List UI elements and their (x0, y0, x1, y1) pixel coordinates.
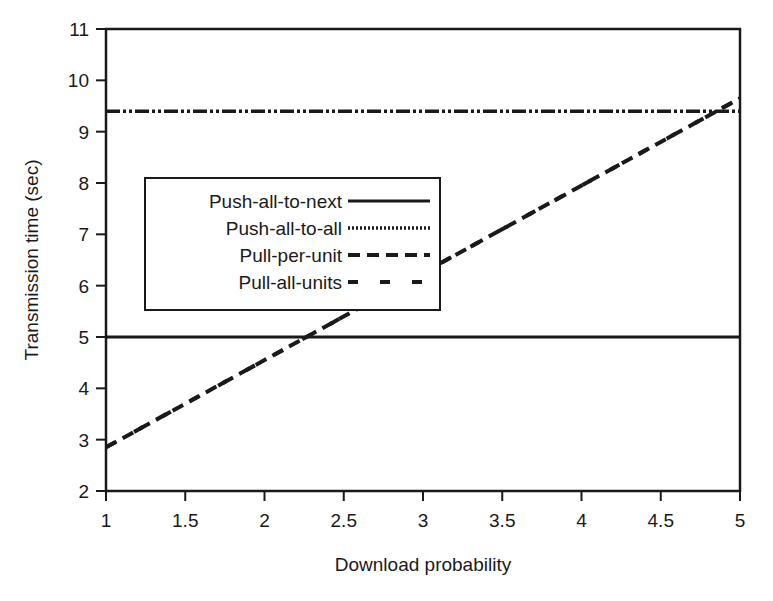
y-tick-label: 9 (78, 122, 89, 143)
y-tick-label: 8 (78, 173, 89, 194)
x-tick-label: 1.5 (172, 510, 198, 531)
y-tick-label: 10 (68, 70, 89, 91)
legend-label: Pull-all-units (239, 272, 342, 293)
x-tick-label: 3.5 (489, 510, 515, 531)
y-axis: 234567891011 (68, 19, 106, 502)
x-tick-label: 2.5 (331, 510, 357, 531)
legend-label: Push-all-to-next (209, 191, 343, 212)
x-tick-label: 4 (576, 510, 587, 531)
y-axis-title: Transmission time (sec) (21, 160, 42, 361)
y-tick-label: 6 (78, 276, 89, 297)
x-tick-label: 3 (418, 510, 429, 531)
legend-label: Pull-per-unit (240, 245, 343, 266)
legend-label: Push-all-to-all (226, 218, 342, 239)
x-tick-label: 5 (735, 510, 746, 531)
y-tick-label: 4 (78, 378, 89, 399)
x-axis-title: Download probability (335, 554, 512, 575)
y-tick-label: 2 (78, 481, 89, 502)
y-tick-label: 7 (78, 224, 89, 245)
x-tick-label: 1 (101, 510, 112, 531)
legend: Push-all-to-nextPush-all-to-allPull-per-… (145, 178, 440, 310)
x-tick-label: 2 (259, 510, 270, 531)
y-tick-label: 5 (78, 327, 89, 348)
x-axis: 11.522.533.544.55 (101, 491, 746, 531)
chart: 234567891011 11.522.533.544.55 Push-all-… (0, 0, 773, 601)
x-tick-label: 4.5 (648, 510, 674, 531)
y-tick-label: 3 (78, 430, 89, 451)
y-tick-label: 11 (69, 19, 89, 40)
